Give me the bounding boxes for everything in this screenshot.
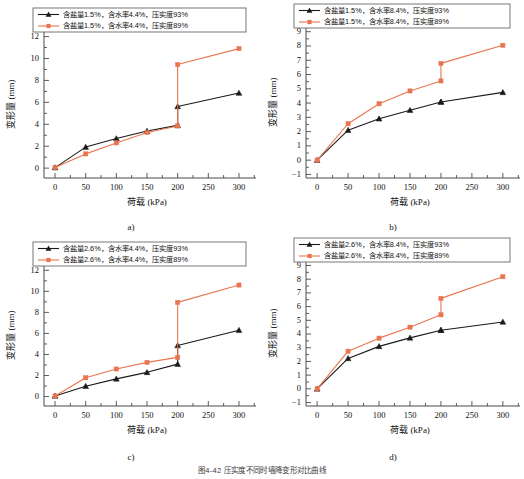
x-tick-label: 0	[53, 410, 57, 420]
legend-d: 含盐量2.6%，含水率8.4%，压实度93%含盐量2.6%，含水率8.4%，压实…	[294, 238, 510, 262]
data-series-93	[314, 89, 506, 162]
data-point-marker	[84, 152, 88, 156]
x-tick-label: 0	[315, 182, 319, 192]
y-axis-title: 变形量 (mm)	[267, 308, 278, 357]
y-tick-label: 3	[297, 112, 301, 122]
data-series-93	[314, 319, 506, 391]
y-tick-label: 4	[35, 349, 40, 359]
y-tick-label: 0	[35, 163, 39, 173]
legend-c: 含盐量2.6%，含水率4.4%，压实度93%含盐量2.6%，含水率4.4%，压实…	[33, 242, 246, 266]
x-tick-label: 300	[496, 182, 509, 192]
subplot-label-d: d)	[262, 452, 524, 462]
data-point-marker	[176, 124, 180, 128]
y-tick-label: 8	[35, 307, 39, 317]
figure-caption: 图4-42 压实度不同时墙降变形对比曲线	[0, 464, 524, 475]
plot-area-b: −10123456789050100150200250300荷载 (kPa)变形…	[262, 0, 524, 232]
y-tick-label: 2	[297, 126, 301, 136]
subplot-c: 024681012050100150200250300荷载 (kPa)变形量 (…	[0, 232, 262, 460]
data-point-marker	[377, 336, 381, 340]
legend-marker	[46, 258, 50, 262]
data-point-marker	[439, 313, 443, 317]
y-axis-ticks-d: −10123456789	[292, 259, 311, 407]
x-tick-label: 100	[110, 182, 123, 192]
data-point-marker	[145, 130, 149, 134]
subplot-a: 024681012050100150200250300荷载 (kPa)变形量 (…	[0, 0, 262, 232]
x-axis-ticks-b: 050100150200250300	[315, 173, 518, 192]
subplot-label-b: b)	[262, 222, 524, 232]
data-point-marker	[114, 367, 118, 371]
data-point-marker	[439, 79, 443, 83]
x-axis-title: 荷载 (kPa)	[390, 196, 430, 207]
data-point-marker	[53, 394, 57, 398]
data-point-marker	[175, 361, 181, 366]
data-point-marker	[439, 61, 443, 65]
legend-label: 含盐量1.5%，含水率8.4%，压实度89%	[324, 17, 449, 26]
data-point-marker	[53, 165, 57, 169]
data-point-marker	[377, 102, 381, 106]
x-tick-label: 300	[233, 410, 246, 420]
x-tick-label: 250	[466, 410, 479, 420]
y-tick-label: 7	[297, 287, 301, 297]
axes-b	[306, 22, 520, 178]
y-tick-label: 1	[297, 370, 301, 380]
y-axis-title: 变形量 (mm)	[5, 310, 16, 359]
data-point-marker	[501, 43, 505, 47]
y-tick-label: −1	[292, 397, 301, 407]
y-tick-label: −1	[292, 169, 301, 179]
y-tick-label: 2	[297, 356, 301, 366]
y-axis-title: 变形量 (mm)	[5, 79, 16, 128]
data-point-marker	[176, 62, 180, 66]
y-tick-label: 8	[297, 40, 301, 50]
data-point-marker	[114, 141, 118, 145]
figure-container: 024681012050100150200250300荷载 (kPa)变形量 (…	[0, 0, 524, 479]
data-point-marker	[176, 300, 180, 304]
axes-d	[306, 256, 520, 406]
y-tick-label: 0	[297, 155, 301, 165]
y-tick-label: 6	[297, 69, 301, 79]
y-tick-label: 10	[31, 286, 40, 296]
data-point-marker	[315, 387, 319, 391]
x-tick-label: 150	[404, 410, 417, 420]
x-tick-label: 300	[496, 410, 509, 420]
legend-label: 含盐量2.6%，含水率4.4%，压实度89%	[63, 255, 188, 264]
y-tick-label: 6	[35, 328, 39, 338]
y-axis-title: 变形量 (mm)	[267, 77, 278, 126]
x-tick-label: 200	[435, 410, 448, 420]
data-point-marker	[501, 275, 505, 279]
y-axis-ticks-c: 024681012	[31, 260, 50, 401]
x-tick-label: 250	[466, 182, 479, 192]
plot-area-c: 024681012050100150200250300荷载 (kPa)变形量 (…	[0, 232, 262, 460]
legend-label: 含盐量2.6%，含水率4.4%，压实度93%	[63, 244, 188, 253]
x-tick-label: 50	[344, 410, 353, 420]
y-axis-ticks-b: −10123456789	[292, 25, 311, 179]
y-tick-label: 4	[297, 98, 302, 108]
y-tick-label: 6	[35, 97, 39, 107]
data-point-marker	[145, 360, 149, 364]
legend-marker	[307, 20, 311, 24]
plot-area-d: −10123456789050100150200250300荷载 (kPa)变形…	[262, 232, 524, 460]
data-series-89	[53, 47, 241, 170]
x-tick-label: 0	[315, 410, 319, 420]
y-tick-label: 0	[297, 383, 301, 393]
data-point-marker	[408, 325, 412, 329]
data-point-marker	[237, 47, 241, 51]
x-tick-label: 0	[53, 182, 57, 192]
x-tick-label: 150	[141, 410, 154, 420]
axes-a	[44, 26, 256, 178]
y-tick-label: 0	[35, 391, 39, 401]
subplot-label-a: a)	[0, 222, 262, 232]
y-tick-label: 2	[35, 370, 39, 380]
subplot-grid: 024681012050100150200250300荷载 (kPa)变形量 (…	[0, 0, 524, 460]
x-tick-label: 200	[171, 410, 184, 420]
x-axis-ticks-c: 050100150200250300	[53, 401, 254, 420]
y-tick-label: 3	[297, 342, 301, 352]
legend-marker	[307, 254, 311, 258]
data-point-marker	[176, 355, 180, 359]
data-point-marker	[408, 89, 412, 93]
plot-area-a: 024681012050100150200250300荷载 (kPa)变形量 (…	[0, 0, 262, 232]
x-tick-label: 150	[141, 182, 154, 192]
y-tick-label: 8	[35, 75, 39, 85]
legend-a: 含盐量1.5%，含水率4.4%，压实度93%含盐量1.5%，含水率4.4%，压实…	[33, 8, 246, 32]
data-series-89	[315, 43, 505, 162]
legend-label: 含盐量1.5%，含水率4.4%，压实度93%	[63, 10, 188, 19]
